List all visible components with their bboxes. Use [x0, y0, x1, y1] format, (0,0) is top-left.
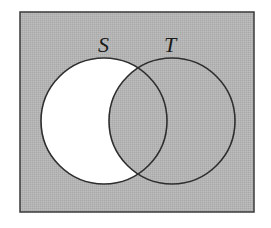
- set-s-label: S: [98, 32, 109, 57]
- set-t-label: T: [164, 32, 178, 57]
- venn-diagram: S T: [0, 0, 271, 228]
